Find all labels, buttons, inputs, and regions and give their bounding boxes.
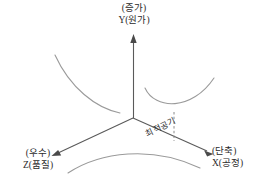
quality-process-arch <box>68 154 200 173</box>
up-arrow-icon <box>130 34 136 43</box>
axis-label-x: (단축) X(공정) <box>212 145 267 169</box>
axis-x-direction-note: (단축) <box>212 145 267 157</box>
axis-label-y: (증가) Y(원가) <box>98 2 170 26</box>
axis-y-name: Y(원가) <box>98 14 170 26</box>
tradeoff-diagram: (증가) Y(원가) (우수) Z(품질) (단축) X(공정) 최적공기 <box>0 0 267 185</box>
cost-curve-left <box>55 55 120 113</box>
axis-y <box>130 34 136 118</box>
axis-z-name: Z(품질) <box>2 159 74 171</box>
cost-curve-right-parabola <box>145 78 214 104</box>
axis-y-direction-note: (증가) <box>98 2 170 14</box>
axis-x-name: X(공정) <box>212 157 267 169</box>
axis-z-direction-note: (우수) <box>2 147 74 159</box>
axis-label-z: (우수) Z(품질) <box>2 147 74 171</box>
